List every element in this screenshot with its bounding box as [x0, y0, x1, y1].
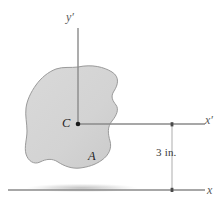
area-label: A [88, 150, 96, 163]
x-axis-label: x [207, 184, 212, 196]
figure-canvas [0, 0, 222, 203]
ground-shadow [26, 184, 138, 193]
centroid-figure: y′ x′ x C A 3 in. [0, 0, 222, 203]
centroid-label: C [62, 117, 70, 130]
x-prime-axis-label: x′ [205, 114, 213, 126]
dimension-tick-bottom [171, 188, 174, 192]
area-shape [25, 66, 117, 168]
dimension-tick-top [171, 122, 174, 126]
y-prime-axis-label: y′ [66, 11, 74, 23]
dimension-label: 3 in. [156, 147, 177, 158]
centroid-dot [76, 122, 81, 127]
